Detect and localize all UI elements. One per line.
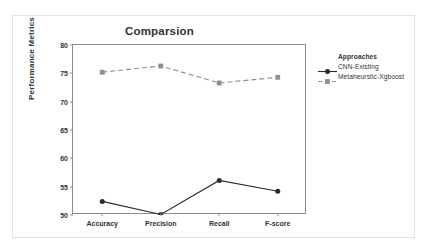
x-tick-label: Accuracy [86, 220, 118, 227]
data-point [217, 81, 222, 86]
y-tick-label: 80 [60, 42, 68, 49]
data-point [275, 189, 280, 194]
x-tick-mark [102, 213, 103, 216]
x-tick-mark [160, 213, 161, 216]
y-tick-mark [70, 101, 73, 102]
series-line [102, 66, 278, 83]
legend-label: CNN-Existing [338, 63, 379, 70]
y-tick-label: 65 [60, 127, 68, 134]
y-tick-mark [70, 130, 73, 131]
data-point [158, 64, 163, 69]
series-line [102, 180, 278, 214]
legend-item-2[interactable]: Metaheurstic-Xgboost [318, 72, 426, 81]
figure-frame: Comparsion 50556065707580AccuracyPrecisi… [12, 15, 415, 238]
y-tick-mark [70, 158, 73, 159]
y-tick-label: 55 [60, 183, 68, 190]
x-tick-label: Recall [209, 220, 230, 227]
x-tick-mark [219, 213, 220, 216]
y-axis-title: Performance Metrics [27, 0, 36, 129]
data-point [275, 75, 280, 80]
legend-entries: CNN-ExistingMetaheurstic-Xgboost [318, 62, 426, 81]
x-tick-label: Precision [145, 220, 177, 227]
legend-item-1[interactable]: CNN-Existing [318, 62, 426, 71]
legend-square-marker-icon [318, 72, 337, 81]
series-1 [100, 178, 281, 215]
series-2 [100, 64, 280, 86]
y-tick-label: 75 [60, 70, 68, 77]
y-tick-label: 60 [60, 155, 68, 162]
y-tick-label: 70 [60, 98, 68, 105]
chart-legend: Approaches CNN-ExistingMetaheurstic-Xgbo… [318, 53, 426, 82]
legend-title: Approaches [338, 53, 426, 60]
data-point [100, 199, 105, 204]
data-point [217, 178, 222, 183]
y-tick-mark [70, 73, 73, 74]
y-tick-label: 50 [60, 212, 68, 219]
data-point [100, 70, 105, 75]
plot-canvas [73, 45, 307, 215]
x-tick-label: F-score [265, 220, 290, 227]
y-tick-mark [70, 215, 73, 216]
legend-label: Metaheurstic-Xgboost [338, 73, 404, 80]
legend-circle-marker-icon [318, 62, 337, 71]
plot-area: 50556065707580AccuracyPrecisionRecallF-s… [72, 44, 306, 214]
y-tick-mark [70, 45, 73, 46]
chart-title: Comparsion [13, 25, 306, 37]
y-tick-mark [70, 186, 73, 187]
x-tick-mark [277, 213, 278, 216]
